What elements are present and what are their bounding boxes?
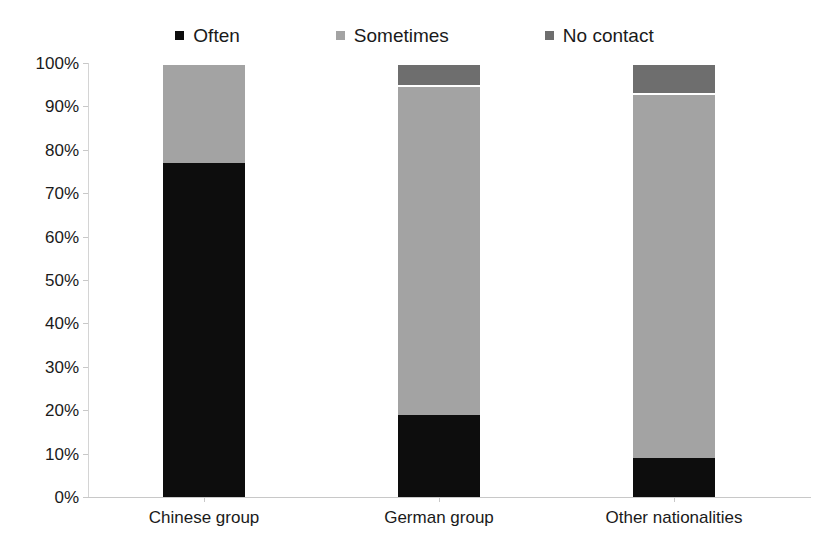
y-axis-tick-mark bbox=[83, 237, 88, 238]
y-axis-tick-mark bbox=[83, 106, 88, 107]
y-axis-tick-label: 80% bbox=[45, 141, 79, 158]
legend-label-often: Often bbox=[193, 26, 239, 45]
bar-segment[interactable] bbox=[163, 163, 245, 497]
x-axis-tick-label: German group bbox=[384, 509, 494, 526]
y-axis-tick-label: 0% bbox=[54, 489, 79, 506]
y-axis-tick-mark bbox=[83, 323, 88, 324]
bar-stack bbox=[163, 63, 245, 497]
y-axis-tick-mark bbox=[83, 150, 88, 151]
bar-segment[interactable] bbox=[633, 458, 715, 497]
y-axis-tick-label: 20% bbox=[45, 402, 79, 419]
y-axis-tick-mark bbox=[83, 193, 88, 194]
legend-swatch-no-contact bbox=[545, 31, 554, 40]
legend-item-sometimes[interactable]: Sometimes bbox=[336, 26, 449, 45]
legend-label-sometimes: Sometimes bbox=[354, 26, 449, 45]
y-axis-tick-mark bbox=[83, 367, 88, 368]
x-axis-tick-mark bbox=[439, 497, 440, 502]
y-axis-tick-label: 100% bbox=[36, 55, 79, 72]
bar-segment[interactable] bbox=[398, 63, 480, 85]
chart-legend: Often Sometimes No contact bbox=[0, 26, 829, 45]
bar-group: German group bbox=[398, 63, 480, 497]
x-axis-tick-mark bbox=[204, 497, 205, 502]
y-axis-tick-label: 10% bbox=[45, 445, 79, 462]
bar-stack bbox=[398, 63, 480, 497]
y-axis-tick-label: 30% bbox=[45, 358, 79, 375]
bar-group: Other nationalities bbox=[633, 63, 715, 497]
y-axis-tick-label: 70% bbox=[45, 185, 79, 202]
bar-stack bbox=[633, 63, 715, 497]
y-axis-line bbox=[88, 63, 89, 497]
y-axis-tick-mark bbox=[83, 410, 88, 411]
y-axis-tick-label: 50% bbox=[45, 272, 79, 289]
bar-group: Chinese group bbox=[163, 63, 245, 497]
y-axis-tick-label: 60% bbox=[45, 228, 79, 245]
x-axis-tick-label: Chinese group bbox=[149, 509, 260, 526]
legend-swatch-sometimes bbox=[336, 31, 345, 40]
y-axis-tick-label: 40% bbox=[45, 315, 79, 332]
legend-item-no-contact[interactable]: No contact bbox=[545, 26, 654, 45]
x-axis-tick-label: Other nationalities bbox=[605, 509, 742, 526]
y-axis-tick-mark bbox=[83, 497, 88, 498]
plot-area: 0%10%20%30%40%50%60%70%80%90%100% Chines… bbox=[88, 63, 811, 497]
bar-segment[interactable] bbox=[633, 93, 715, 458]
y-axis-tick-mark bbox=[83, 280, 88, 281]
bar-segment[interactable] bbox=[163, 63, 245, 163]
bar-segment[interactable] bbox=[398, 85, 480, 415]
y-axis-tick-label: 90% bbox=[45, 98, 79, 115]
legend-swatch-often bbox=[175, 31, 184, 40]
bar-segment[interactable] bbox=[398, 415, 480, 497]
legend-label-no-contact: No contact bbox=[563, 26, 654, 45]
x-axis-line bbox=[88, 497, 811, 498]
bar-segment[interactable] bbox=[633, 63, 715, 93]
y-axis-tick-mark bbox=[83, 63, 88, 64]
stacked-bar-chart: Often Sometimes No contact 0%10%20%30%40… bbox=[0, 0, 829, 556]
legend-item-often[interactable]: Often bbox=[175, 26, 239, 45]
x-axis-tick-mark bbox=[674, 497, 675, 502]
y-axis-tick-mark bbox=[83, 454, 88, 455]
